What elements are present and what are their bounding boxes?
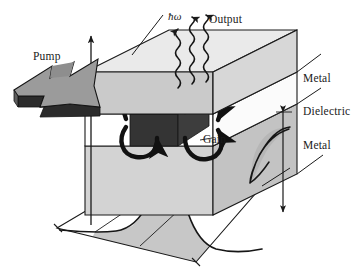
mim-plasmonic-laser-diagram <box>0 0 356 274</box>
guide-line-top-right <box>297 54 321 72</box>
photon-energy-label: ħω <box>168 11 182 22</box>
output-label: Output <box>209 14 242 26</box>
pump-label: Pump <box>33 51 61 63</box>
metal-top-label: Metal <box>303 73 331 85</box>
guide-line-bottom-right <box>297 155 323 174</box>
gain-label: Gain <box>203 134 226 146</box>
figure-root: Pump ħω Output Metal Dielectric Metal Ga… <box>0 0 356 274</box>
guide-line-mid-right <box>297 88 321 104</box>
metal-bottom-label: Metal <box>303 140 331 152</box>
dielectric-label: Dielectric <box>303 106 350 118</box>
gain-block-front-face <box>130 114 178 146</box>
pump-arrow-group <box>14 59 100 117</box>
